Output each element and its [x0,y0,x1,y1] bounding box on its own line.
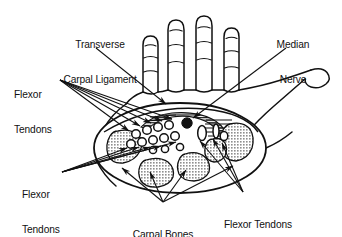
flexor-tendon-thumb-ellipse [213,124,219,138]
finger-middle [168,20,184,90]
flexor-tendon-circle [161,145,168,152]
flexor-tendon-circle [149,136,158,145]
label-line: Flexor [14,89,76,101]
label-line: Flexor Tendons [204,219,312,231]
label-line: Nerve [262,74,324,86]
flexor-tendon-circle [143,126,152,135]
label-line: Tendons [14,124,76,136]
flexor-tendon-circle [154,123,163,132]
flexor-tendon-circle [165,121,174,130]
carpal-tunnel-diagram: Transverse Carpal Ligament Median Nerve … [0,0,342,237]
flexor-tendon-circle [171,132,180,141]
label-flexor-tendons-thumb: Flexor Tendons (Thumb) [204,196,312,237]
flexor-tendon-circle [176,143,183,150]
label-flexor-tendons-upper: Flexor Tendons [14,66,76,159]
label-carpal-bones: Carpal Bones [108,206,218,237]
label-line: Tendons [22,224,84,236]
flexor-tendon-circle [132,130,141,139]
carpal-bone-2 [139,158,174,187]
label-line: Median [262,39,324,51]
flexor-tendon-circle [127,140,136,149]
label-line: Transverse [48,39,152,51]
hand-right-edge [266,132,292,148]
flexor-tendon-thumb-ellipse [220,131,228,140]
label-line: Flexor [22,189,84,201]
flexor-tendon-circle [138,138,147,147]
carpal-bone-3 [178,153,210,181]
flexor-tendon-thumb-ellipse [198,125,207,140]
finger-ring [196,16,212,90]
finger-little [224,28,239,90]
label-flexor-tendons-lower: Flexor Tendons [22,166,84,237]
median-nerve [182,118,192,128]
flexor-tendon-circle [160,134,169,143]
label-line: Carpal Bones [108,229,218,237]
label-median-nerve: Median Nerve [262,16,324,109]
